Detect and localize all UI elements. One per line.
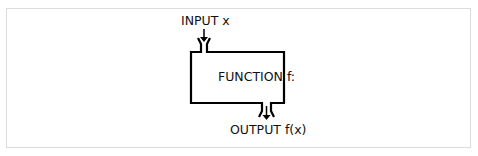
function-label: FUNCTION f:: [218, 69, 295, 84]
input-arrow-icon: [200, 29, 208, 42]
output-label: OUTPUT f(x): [230, 122, 306, 137]
output-arrow-icon: [263, 106, 271, 120]
input-label: INPUT x: [181, 13, 230, 28]
